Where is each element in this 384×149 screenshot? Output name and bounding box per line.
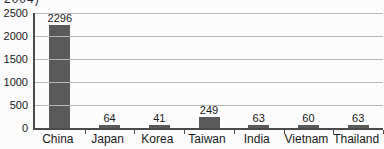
bar-slot-korea: 41	[134, 13, 184, 128]
x-label-korea: Korea	[132, 132, 182, 146]
gridline-1000	[35, 82, 383, 83]
x-label-thailand: Thailand	[331, 132, 381, 146]
bar-value-label-china: 2296	[48, 13, 72, 24]
gridline-2000	[35, 36, 383, 37]
y-tick-label-1000: 1000	[4, 76, 28, 88]
y-tick-label-2500: 2500	[4, 7, 28, 19]
y-tick-label-500: 500	[10, 99, 28, 111]
bar-japan	[99, 125, 120, 128]
bar-slot-china: 2296	[35, 13, 85, 128]
x-axis-labels: ChinaJapanKoreaTaiwanIndiaVietnamThailan…	[33, 132, 381, 146]
bar-value-label-taiwan: 249	[200, 105, 218, 116]
bar-value-label-india: 63	[253, 113, 265, 124]
gridline-1500	[35, 59, 383, 60]
bar-slot-thailand: 63	[333, 13, 383, 128]
y-tick-label-1500: 1500	[4, 53, 28, 65]
bar-value-label-japan: 64	[103, 113, 115, 124]
bar-taiwan	[199, 117, 220, 128]
x-label-taiwan: Taiwan	[182, 132, 232, 146]
plot-area: 22966441249636063	[33, 13, 383, 130]
gridline-2500	[35, 13, 383, 14]
bar-thailand	[348, 125, 369, 128]
x-label-japan: Japan	[83, 132, 133, 146]
bar-chart: 2004) 05001000150020002500 2296644124963…	[0, 0, 384, 149]
x-label-india: India	[232, 132, 282, 146]
y-tick-label-0: 0	[22, 122, 28, 134]
bar-slot-taiwan: 249	[184, 13, 234, 128]
y-tick-label-2000: 2000	[4, 30, 28, 42]
x-label-vietnam: Vietnam	[282, 132, 332, 146]
bar-china	[49, 25, 70, 128]
x-label-china: China	[33, 132, 83, 146]
bar-korea	[149, 125, 170, 128]
bar-value-label-vietnam: 60	[302, 113, 314, 124]
bar-value-label-thailand: 63	[352, 113, 364, 124]
bar-value-label-korea: 41	[153, 113, 165, 124]
bar-slot-vietnam: 60	[284, 13, 334, 128]
bar-slot-japan: 64	[85, 13, 135, 128]
bar-slots: 22966441249636063	[35, 13, 383, 128]
bar-vietnam	[298, 125, 319, 128]
gridline-500	[35, 105, 383, 106]
y-axis: 05001000150020002500	[0, 0, 29, 149]
bar-india	[248, 125, 269, 128]
bar-slot-india: 63	[234, 13, 284, 128]
